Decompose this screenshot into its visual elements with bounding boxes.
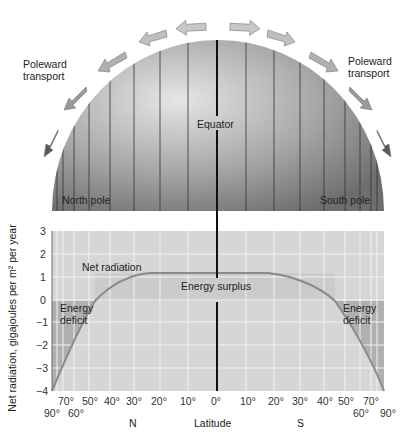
arrow-icon (267, 30, 295, 46)
x-axis-label: Latitude (194, 417, 231, 429)
arrow-icon (349, 87, 372, 110)
energy-deficit-south-label: Energydeficit (343, 302, 376, 326)
arrow-icon (230, 19, 261, 36)
net-radiation-label: Net radiation (82, 261, 142, 273)
energy-surplus-label: Energy surplus (181, 280, 251, 292)
poleward-transport-left: Polewardtransport (23, 58, 67, 82)
south-label: S (297, 417, 304, 429)
arrow-icon (139, 30, 167, 46)
arrow-icon (176, 19, 207, 36)
south-pole-label: South pole (320, 194, 370, 206)
y-axis-label: Net radiation, gigajoules per m² per yea… (6, 213, 18, 423)
energy-deficit-north-label: Energydeficit (60, 302, 93, 326)
arrow-icon (377, 130, 391, 157)
arrow-icon (309, 52, 338, 72)
north-label: N (129, 417, 137, 429)
arrow-icon (64, 87, 87, 110)
poleward-transport-right: Polewardtransport (348, 55, 392, 79)
north-pole-label: North pole (62, 194, 110, 206)
arrow-icon (98, 52, 127, 72)
arrow-icon (44, 130, 58, 157)
equator-label: Equator (197, 118, 234, 130)
